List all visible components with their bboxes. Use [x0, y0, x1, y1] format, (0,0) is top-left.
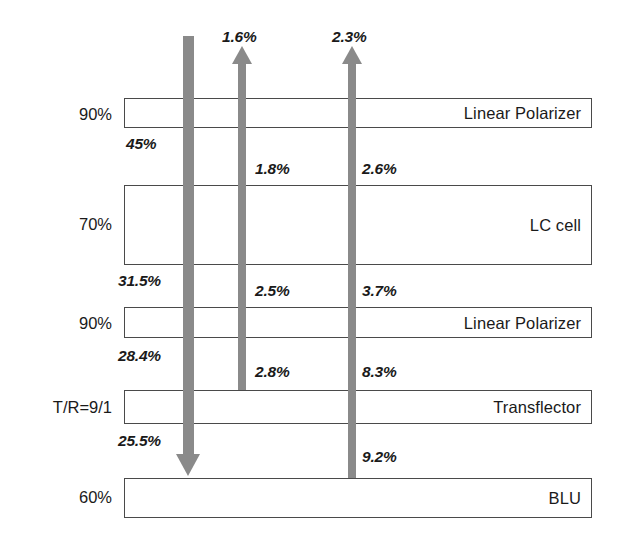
reflective-ray-value-2: 2.5% [255, 282, 290, 300]
transmissive-ray-value-1: 2.6% [362, 160, 397, 178]
reflective-ray-value-1: 1.8% [255, 160, 290, 178]
transmissive-ray-arrowhead [342, 46, 362, 64]
efficiency-label-top-polarizer: 90% [10, 105, 112, 124]
layer-box-blu: BLU [124, 478, 592, 518]
efficiency-label-blu: 60% [10, 488, 112, 507]
layer-label-top-polarizer: Linear Polarizer [464, 104, 581, 123]
incident-ray-value-2: 31.5% [118, 272, 161, 290]
incident-ray-value-1: 45% [126, 135, 156, 153]
transmissive-ray-value-4: 9.2% [362, 448, 397, 466]
layer-label-blu: BLU [549, 489, 581, 508]
layer-label-transflector: Transflector [493, 398, 581, 417]
efficiency-label-bottom-polarizer: 90% [10, 314, 112, 333]
reflective-ray-output-value: 1.6% [222, 28, 257, 46]
layer-label-bottom-polarizer: Linear Polarizer [464, 313, 581, 332]
reflective-ray-arrowhead [232, 46, 252, 64]
transmissive-ray-value-2: 3.7% [362, 282, 397, 300]
layer-box-lc-cell: LC cell [124, 185, 592, 265]
transmissive-ray-output-value: 2.3% [332, 28, 367, 46]
optical-efficiency-diagram: Linear Polarizer LC cell Linear Polarize… [0, 0, 620, 540]
incident-ray-value-3: 28.4% [118, 347, 161, 365]
layer-label-lc-cell: LC cell [530, 216, 581, 235]
layer-box-top-polarizer: Linear Polarizer [124, 98, 592, 128]
incident-ray-shaft [183, 36, 194, 456]
reflective-ray-value-3: 2.8% [255, 363, 290, 381]
transmissive-ray-shaft [348, 62, 356, 478]
layer-box-bottom-polarizer: Linear Polarizer [124, 307, 592, 338]
incident-ray-arrowhead [176, 454, 200, 476]
layer-box-transflector: Transflector [124, 390, 592, 424]
transmissive-ray-value-3: 8.3% [362, 363, 397, 381]
efficiency-label-transflector: T/R=9/1 [10, 398, 112, 417]
reflective-ray-shaft [238, 62, 246, 390]
efficiency-label-lc-cell: 70% [10, 215, 112, 234]
incident-ray-value-4: 25.5% [118, 432, 161, 450]
